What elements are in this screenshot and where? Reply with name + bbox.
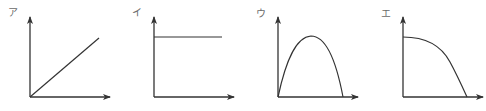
- graph-u-label: ウ: [256, 9, 266, 19]
- graph-a: [30, 17, 110, 97]
- graph-a-curve: [30, 38, 99, 97]
- graph-e-curve: [403, 37, 467, 97]
- graphs-canvas: [0, 0, 486, 111]
- graph-i-label: イ: [132, 8, 142, 18]
- graph-a-label: ア: [8, 8, 18, 18]
- graph-u: [278, 17, 358, 97]
- graph-e-label: エ: [381, 9, 391, 19]
- graph-e: [403, 17, 483, 97]
- graph-i: [154, 17, 234, 97]
- graph-u-curve: [278, 36, 343, 97]
